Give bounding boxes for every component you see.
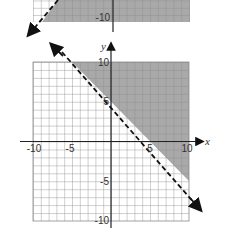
boundary-arrow-down (190, 198, 198, 207)
y-tick-neg5: -5 (100, 176, 109, 187)
bottom-graph: x y -10 -5 5 10 10 5 -5 -10 (20, 40, 210, 228)
x-axis-label: x (204, 135, 210, 147)
top-y-tick-neg10: -10 (96, 12, 111, 23)
y-axis-label: y (100, 40, 106, 52)
x-tick-neg5: -5 (66, 143, 75, 154)
top-graph: -10 (31, 0, 190, 32)
boundary-arrow-up (54, 47, 63, 56)
y-tick-5: 5 (103, 96, 109, 107)
x-tick-10: 10 (181, 143, 193, 154)
x-tick-neg10: -10 (27, 143, 42, 154)
inequality-graphs: -10 x y -10 -5 5 10 10 5 -5 -10 (0, 0, 226, 237)
x-tick-5: 5 (147, 143, 153, 154)
top-grid (33, 0, 190, 22)
y-tick-neg10: -10 (95, 215, 110, 226)
y-tick-10: 10 (98, 57, 110, 68)
